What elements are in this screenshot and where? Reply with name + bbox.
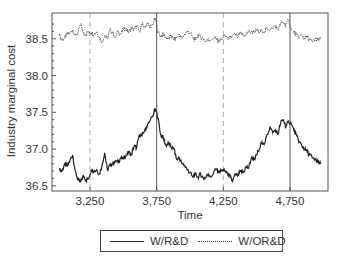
y-tick-label: 36.5 bbox=[26, 180, 48, 192]
axes: 36.537.037.538.038.53,2503,7504,2504,750 bbox=[26, 13, 328, 207]
y-tick-label: 38.0 bbox=[26, 70, 48, 82]
line-chart: 36.537.037.538.038.53,2503,7504,2504,750… bbox=[0, 0, 337, 262]
series-line bbox=[59, 18, 320, 43]
legend-label: W/R&D bbox=[150, 235, 188, 247]
legend-item-without-rd: W/OR&D bbox=[198, 235, 285, 247]
dotted-line-swatch-icon bbox=[198, 241, 232, 242]
x-tick-label: 3,250 bbox=[76, 195, 105, 207]
plot-area bbox=[59, 13, 320, 191]
x-tick-label: 4,750 bbox=[276, 195, 305, 207]
y-tick-label: 38.5 bbox=[26, 33, 48, 45]
legend: W/R&D W/OR&D bbox=[100, 230, 283, 252]
y-tick-label: 37.0 bbox=[26, 143, 48, 155]
y-tick-label: 37.5 bbox=[26, 106, 48, 118]
series-line bbox=[59, 109, 320, 183]
x-tick-label: 3,750 bbox=[142, 195, 171, 207]
x-axis-title: Time bbox=[177, 209, 202, 221]
x-tick-label: 4,250 bbox=[209, 195, 238, 207]
y-axis-title: Industry marginal cost bbox=[5, 44, 17, 157]
legend-item-with-rd: W/R&D bbox=[110, 235, 188, 247]
legend-label: W/OR&D bbox=[238, 235, 285, 247]
plot-frame bbox=[52, 13, 328, 191]
solid-line-swatch-icon bbox=[110, 241, 144, 242]
